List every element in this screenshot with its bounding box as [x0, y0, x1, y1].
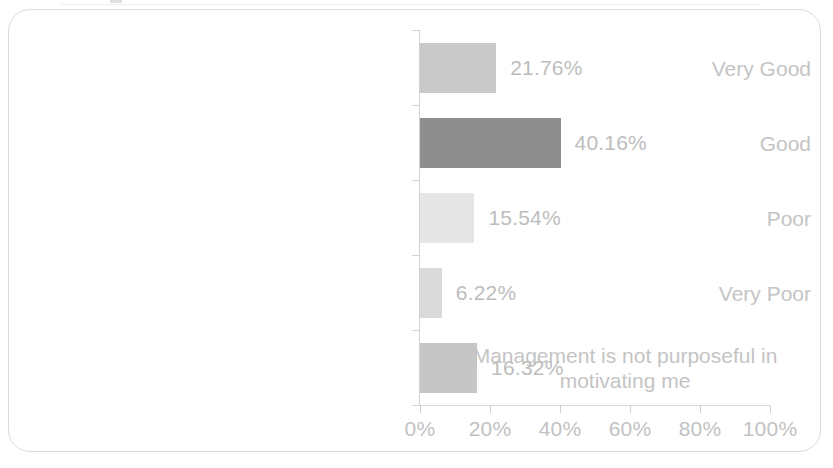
- category-axis-tick: [412, 105, 419, 106]
- x-axis-tick-label: 0%: [405, 417, 436, 441]
- category-axis-tick: [412, 255, 419, 256]
- data-value-label: 21.76%: [510, 56, 582, 80]
- chart-figure: 0%20%40%60%80%100%Very Good21.76%Good40.…: [0, 0, 833, 468]
- x-axis-tick-label: 20%: [469, 417, 512, 441]
- x-axis-tick: [700, 405, 701, 413]
- x-axis-tick: [630, 405, 631, 413]
- x-axis-tick-label: 100%: [743, 417, 798, 441]
- category-axis-tick: [412, 405, 419, 406]
- x-axis-tick-label: 60%: [609, 417, 652, 441]
- value-axis-line: [419, 405, 771, 406]
- category-axis-tick: [412, 30, 419, 31]
- data-value-label: 40.16%: [575, 131, 647, 155]
- data-value-label: 15.54%: [488, 206, 560, 230]
- plot-area: 0%20%40%60%80%100%Very Good21.76%Good40.…: [0, 0, 833, 468]
- x-axis-tick-label: 40%: [539, 417, 582, 441]
- x-axis-tick: [490, 405, 491, 413]
- x-axis-tick-label: 80%: [679, 417, 722, 441]
- category-axis-tick: [412, 180, 419, 181]
- data-value-label: 16.32%: [491, 356, 563, 380]
- category-label: Very Good: [433, 55, 833, 80]
- category-axis-tick: [412, 330, 419, 331]
- x-axis-tick: [770, 405, 771, 413]
- data-value-label: 6.22%: [456, 281, 517, 305]
- x-axis-tick: [420, 405, 421, 413]
- x-axis-tick: [560, 405, 561, 413]
